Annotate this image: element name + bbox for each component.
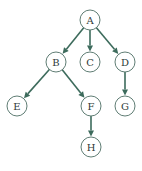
- edge-a-c: [87, 30, 93, 52]
- edge-line: [28, 69, 49, 93]
- tree-diagram: ABCDEFGH: [0, 0, 142, 171]
- node-label: F: [88, 101, 95, 112]
- node-label: G: [121, 101, 129, 112]
- node-label: A: [85, 15, 94, 26]
- node-label: D: [121, 57, 129, 68]
- edge-line: [62, 70, 81, 93]
- nodes-layer: ABCDEFGH: [7, 10, 135, 157]
- edge-a-d: [96, 28, 118, 54]
- edge-line: [96, 28, 114, 50]
- edge-a-b: [63, 28, 84, 54]
- node-label: C: [86, 57, 94, 68]
- edge-line: [66, 28, 83, 49]
- edge-b-f: [62, 70, 84, 98]
- node-d: D: [115, 52, 135, 72]
- arrowhead-icon: [122, 90, 128, 96]
- node-label: B: [52, 57, 59, 68]
- node-h: H: [81, 137, 101, 157]
- edge-b-e: [24, 69, 49, 98]
- node-g: G: [115, 96, 135, 116]
- node-a: A: [80, 10, 100, 30]
- node-label: H: [87, 142, 96, 153]
- edges-layer: [24, 28, 128, 137]
- node-label: E: [13, 101, 20, 112]
- node-c: C: [80, 52, 100, 72]
- node-f: F: [81, 96, 101, 116]
- edge-f-h: [88, 116, 94, 137]
- node-e: E: [7, 96, 27, 116]
- node-b: B: [46, 52, 66, 72]
- arrowhead-icon: [88, 131, 94, 137]
- edge-d-g: [122, 72, 128, 96]
- tree-diagram-svg: ABCDEFGH: [0, 0, 142, 171]
- arrowhead-icon: [87, 46, 93, 52]
